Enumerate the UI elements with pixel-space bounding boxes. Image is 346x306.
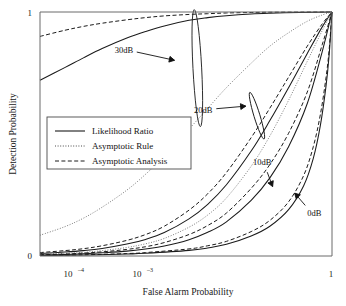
- x-tick-mantissa-0: 10: [64, 269, 74, 279]
- x-tick-exponent-1: –3: [146, 267, 153, 273]
- y-tick-label-0: 0: [28, 251, 33, 261]
- y-axis-title: Detection Probability: [8, 93, 18, 175]
- roc-chart-svg: 30dB20dB10dB0dB 1 0 10 –4 10 –3 1 False …: [0, 0, 346, 306]
- roc-figure: 30dB20dB10dB0dB 1 0 10 –4 10 –3 1 False …: [0, 0, 346, 306]
- legend-label-asymptotic-analysis: Asymptotic Analysis: [92, 156, 168, 166]
- legend-label-asymptotic-rule: Asymptotic Rule: [92, 141, 153, 151]
- x-tick-label-1e-4: 10 –4: [64, 267, 85, 279]
- annotation-label-0db: 0dB: [307, 208, 322, 218]
- annotation-label-20db: 20dB: [194, 105, 213, 115]
- annotation-label-10db: 10dB: [253, 157, 272, 167]
- x-tick-label-1e-3: 10 –3: [133, 267, 154, 279]
- legend-label-likelihood-ratio: Likelihood Ratio: [92, 126, 154, 136]
- legend: Likelihood Ratio Asymptotic Rule Asympto…: [47, 117, 191, 169]
- x-tick-mantissa-1: 10: [133, 269, 143, 279]
- y-tick-label-1: 1: [28, 8, 33, 18]
- annotation-label-30db: 30dB: [115, 45, 134, 55]
- x-axis-title: False Alarm Probability: [143, 287, 234, 297]
- x-tick-exponent-0: –4: [77, 267, 84, 273]
- x-tick-label-1: 1: [329, 269, 334, 279]
